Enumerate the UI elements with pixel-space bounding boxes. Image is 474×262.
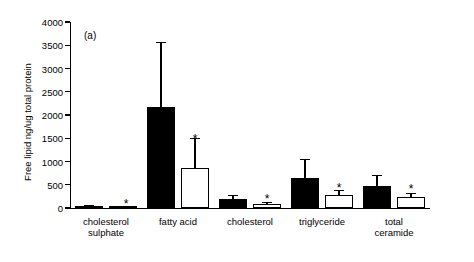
x-axis-tick-label-line: total	[348, 216, 440, 227]
significance-star: *	[265, 193, 270, 205]
y-axis-tick-label: 500	[47, 179, 63, 190]
bar-solid	[219, 199, 247, 208]
y-axis-tick-label: 4000	[42, 17, 63, 28]
y-axis-tick-label: 2000	[42, 110, 63, 121]
x-axis-tick-label-line: ceramide	[348, 227, 440, 238]
significance-star: *	[409, 183, 414, 195]
y-axis-tick	[65, 138, 70, 139]
error-bar-cap	[372, 175, 382, 176]
bar-solid	[291, 178, 319, 208]
chart-figure: Free lipid ng/ug total protein (a) 05001…	[0, 0, 474, 262]
significance-star: *	[124, 198, 129, 210]
significance-star: *	[337, 182, 342, 194]
y-axis-title: Free lipid ng/ug total protein	[22, 22, 36, 222]
y-axis-tick	[65, 21, 70, 22]
y-axis-tick-label: 2500	[42, 86, 63, 97]
y-axis-tick	[65, 68, 70, 69]
y-axis-tick-label: 1500	[42, 133, 63, 144]
bar-solid	[363, 186, 391, 208]
error-bar	[160, 42, 161, 107]
y-axis-tick	[65, 114, 70, 115]
y-axis-tick	[65, 184, 70, 185]
y-axis-tick-label: 0	[58, 203, 63, 214]
error-bar-cap	[228, 195, 238, 196]
error-bar-cap	[84, 205, 94, 206]
error-bar-cap	[156, 42, 166, 43]
bar-solid	[75, 206, 103, 208]
x-axis-tick-label-line: sulphate	[60, 227, 152, 238]
y-axis-tick-label: 3500	[42, 40, 63, 51]
bar-solid	[147, 107, 175, 208]
y-axis-tick-label: 1000	[42, 156, 63, 167]
y-axis-tick	[65, 161, 70, 162]
bar-open	[325, 195, 353, 208]
y-axis-tick-label: 3000	[42, 63, 63, 74]
y-axis-tick	[65, 207, 70, 208]
y-axis-tick	[65, 45, 70, 46]
error-bar	[376, 175, 377, 186]
error-bar	[304, 159, 305, 178]
y-axis-line	[70, 22, 71, 208]
x-axis-tick-label: totalceramide	[348, 216, 440, 238]
panel-label: (a)	[84, 30, 96, 41]
significance-star: *	[193, 133, 198, 145]
error-bar-cap	[300, 159, 310, 160]
bar-open	[397, 197, 425, 208]
plot-area: (a) 05001000150020002500300035004000*cho…	[70, 22, 430, 208]
bar-open	[181, 168, 209, 208]
y-axis-tick	[65, 91, 70, 92]
